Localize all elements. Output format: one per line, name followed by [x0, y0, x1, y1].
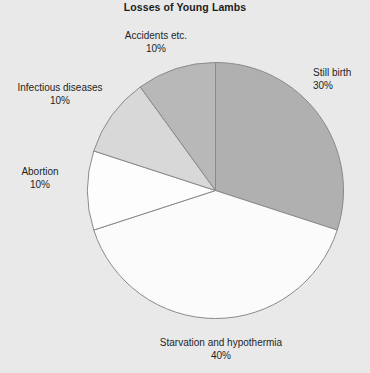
pie-label-abortion: Abortion 10%: [6, 165, 74, 191]
pie-label-starvation-and-hypothermia-percent: 40%: [146, 349, 296, 362]
pie-label-abortion-percent: 10%: [6, 178, 74, 191]
pie-slices-group: [87, 63, 343, 319]
pie-label-still-birth: Still birth 30%: [313, 66, 370, 92]
pie-label-infectious-diseases-percent: 10%: [4, 94, 116, 107]
pie-label-infectious-diseases-name: Infectious diseases: [4, 81, 116, 94]
pie-chart-figure: Losses of Young Lambs Accidents etc. 10%…: [0, 0, 370, 373]
pie-label-starvation-and-hypothermia-name: Starvation and hypothermia: [146, 336, 296, 349]
pie-label-infectious-diseases: Infectious diseases 10%: [4, 81, 116, 107]
pie-label-abortion-name: Abortion: [6, 165, 74, 178]
pie-label-still-birth-name: Still birth: [313, 66, 370, 79]
pie-label-accidents-etc: Accidents etc. 10%: [102, 29, 210, 55]
pie-label-accidents-etc-percent: 10%: [102, 42, 210, 55]
pie-label-still-birth-percent: 30%: [313, 79, 370, 92]
pie-label-accidents-etc-name: Accidents etc.: [102, 29, 210, 42]
pie-label-starvation-and-hypothermia: Starvation and hypothermia 40%: [146, 336, 296, 362]
